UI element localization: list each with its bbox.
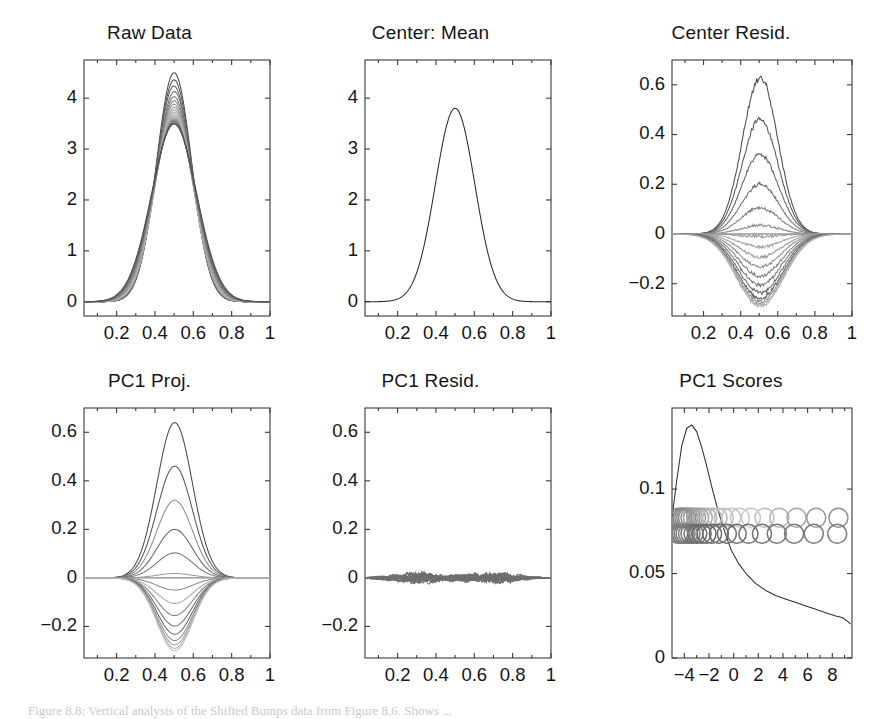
data-curve [84, 578, 270, 590]
x-tick-label: 0.2 [104, 664, 130, 685]
data-curve [672, 234, 852, 307]
data-curve [84, 500, 270, 578]
axes-frame [365, 60, 551, 316]
panel-pc1-proj: PC1 Proj. 0.20.40.60.81−0.200.20.40.6 [22, 370, 277, 690]
data-curve [84, 122, 270, 302]
x-tick-label: 0.4 [142, 322, 168, 343]
plot-center-mean: 0.20.40.60.8101234 [303, 22, 563, 350]
y-tick-label: 0 [655, 222, 665, 243]
x-tick-label: 0.6 [461, 664, 487, 685]
plot-area [84, 423, 270, 651]
data-curve [672, 234, 852, 278]
x-tick-label: 8 [827, 664, 837, 685]
axes-frame [84, 408, 270, 658]
plot-pc1-resid: 0.20.40.60.81−0.200.20.40.6 [303, 370, 563, 692]
plot-raw-data: 0.20.40.60.8101234 [22, 22, 282, 350]
y-tick-label: 4 [67, 86, 77, 107]
x-tick-label: 2 [753, 664, 763, 685]
axes-frame [365, 408, 551, 658]
data-curve [84, 97, 270, 302]
axes-frame [672, 408, 852, 658]
x-tick-label: 1 [265, 664, 275, 685]
data-curve [84, 120, 270, 302]
x-tick-label: 0.2 [385, 664, 411, 685]
y-tick-label: 0.2 [51, 517, 77, 538]
y-tick-label: 2 [348, 188, 358, 209]
data-curve [84, 110, 270, 302]
y-tick-label: 0 [655, 646, 665, 667]
data-curve [84, 123, 270, 302]
x-tick-label: 0.6 [765, 322, 791, 343]
x-tick-label: 0.6 [180, 322, 206, 343]
x-tick-label: 0.6 [180, 664, 206, 685]
x-tick-label: 0.4 [423, 664, 449, 685]
data-curve [84, 423, 270, 578]
plot-center-resid: 0.20.40.60.81−0.200.20.40.6 [600, 22, 864, 350]
data-curve [672, 234, 852, 258]
data-curve [672, 118, 852, 234]
y-tick-label: 0.6 [332, 420, 358, 441]
data-curve [672, 234, 852, 294]
data-curve [365, 108, 551, 301]
data-curve [84, 578, 270, 616]
y-tick-label: 0.6 [51, 420, 77, 441]
data-curve [84, 107, 270, 301]
data-curve [84, 553, 270, 578]
x-tick-label: 1 [847, 322, 857, 343]
y-tick-label: 0 [348, 566, 358, 587]
panel-center-mean: Center: Mean 0.20.40.60.8101234 [303, 22, 558, 352]
plot-area [84, 73, 270, 302]
panel-pc1-scores: PC1 Scores −4−20246800.050.1 [600, 370, 862, 690]
x-tick-label: 6 [802, 664, 812, 685]
x-tick-label: 0.2 [104, 322, 130, 343]
y-tick-label: 2 [67, 188, 77, 209]
panel-title: PC1 Proj. [22, 370, 277, 392]
data-curve [84, 124, 270, 302]
data-curve [84, 80, 270, 302]
y-tick-label: 0.4 [639, 122, 665, 143]
data-curve [84, 113, 270, 301]
x-tick-label: 0.8 [219, 664, 245, 685]
data-curve [84, 578, 270, 603]
y-tick-label: 0.6 [639, 73, 665, 94]
y-tick-label: 0.4 [332, 469, 358, 490]
data-curve [672, 224, 852, 234]
y-tick-label: 0 [348, 290, 358, 311]
data-curve [84, 578, 270, 645]
y-tick-label: 0.1 [639, 477, 665, 498]
panel-title: Center Resid. [600, 22, 862, 44]
y-tick-label: 3 [348, 137, 358, 158]
data-curve [84, 578, 270, 641]
x-tick-label: 0 [728, 664, 738, 685]
x-tick-label: 0.2 [691, 322, 717, 343]
y-tick-label: −0.2 [40, 614, 77, 635]
data-curve [84, 578, 270, 648]
y-tick-label: 0.2 [332, 517, 358, 538]
panel-title: PC1 Scores [600, 370, 862, 392]
axes-frame [672, 60, 852, 316]
plot-area [669, 425, 851, 624]
data-curve [84, 117, 270, 302]
x-tick-label: 0.8 [500, 322, 526, 343]
plot-area [672, 76, 852, 307]
x-tick-label: 0.4 [728, 322, 754, 343]
x-tick-label: 0.8 [219, 322, 245, 343]
x-tick-label: 0.6 [461, 322, 487, 343]
panel-title: Center: Mean [303, 22, 558, 44]
data-curve [84, 121, 270, 302]
x-tick-label: 1 [546, 664, 556, 685]
figure-caption: Figure 8.8: Vertical analysis of the Shi… [28, 703, 868, 719]
data-curve [84, 466, 270, 578]
panel-center-resid: Center Resid. 0.20.40.60.81−0.200.20.40.… [600, 22, 862, 352]
y-tick-label: 0.2 [639, 172, 665, 193]
data-curve [84, 104, 270, 301]
x-tick-label: −4 [674, 664, 695, 685]
data-curve [84, 578, 270, 626]
x-tick-label: −2 [698, 664, 719, 685]
y-tick-label: 1 [67, 239, 77, 260]
data-curve [672, 154, 852, 234]
y-tick-label: 0 [67, 566, 77, 587]
x-tick-label: 0.2 [385, 322, 411, 343]
panel-title: PC1 Resid. [303, 370, 558, 392]
plot-area [365, 571, 551, 584]
